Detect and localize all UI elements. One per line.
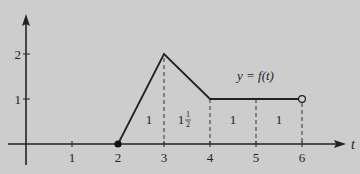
- area-label-5-6: 1: [276, 112, 283, 127]
- filled-endpoint-marker: [114, 140, 121, 147]
- area-label-4-5: 1: [230, 112, 237, 127]
- x-tick-label: 6: [299, 150, 306, 165]
- x-tick-label: 3: [161, 150, 168, 165]
- x-tick-label: 4: [207, 150, 214, 165]
- axes: [8, 20, 340, 165]
- t-axis-label: t: [351, 137, 356, 152]
- chart: 1 2 3 4 5 6 1 2 t y = f(t) 1 1 1 2 1 1: [0, 0, 360, 174]
- svg-text:1: 1: [178, 112, 185, 127]
- x-tick-label: 5: [253, 150, 260, 165]
- svg-text:2: 2: [186, 120, 190, 129]
- area-label-2-3: 1: [146, 112, 153, 127]
- open-endpoint-marker: [299, 96, 306, 103]
- y-tick-label: 2: [15, 47, 22, 62]
- x-tick-label: 1: [69, 150, 76, 165]
- y-tick-label: 1: [15, 92, 22, 107]
- dashed-guides: [164, 58, 302, 144]
- area-label-3-4: 1 1 2: [178, 110, 191, 129]
- svg-text:1: 1: [186, 110, 190, 119]
- x-tick-label: 2: [115, 150, 122, 165]
- curve-label: y = f(t): [235, 68, 274, 83]
